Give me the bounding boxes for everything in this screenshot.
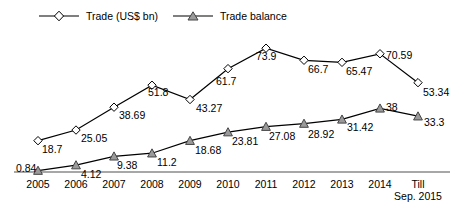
data-point-marker: [110, 103, 118, 111]
data-point-label: 61.7: [216, 76, 236, 87]
data-point-label: 51.8: [148, 87, 168, 98]
data-point-label: 18.68: [195, 145, 221, 156]
data-point-marker: [34, 136, 42, 144]
data-point-label: 38: [386, 102, 398, 113]
data-point-marker: [376, 104, 385, 112]
data-point-label: 33.3: [424, 117, 444, 128]
x-axis-tick-10: TillSep. 2015: [388, 178, 448, 202]
data-point-label: 73.9: [256, 51, 276, 62]
data-point-label: 11.2: [157, 157, 177, 168]
data-point-label: 25.05: [81, 133, 107, 144]
x-axis-tick-line1: Till: [411, 178, 424, 190]
data-point-marker: [72, 126, 80, 134]
data-point-marker: [338, 58, 346, 66]
data-point-label: 23.81: [232, 136, 258, 147]
data-point-label: 28.92: [308, 129, 334, 140]
data-point-label: 0.84: [16, 163, 36, 174]
data-point-label: 66.7: [308, 64, 328, 75]
data-point-label: 27.08: [269, 131, 295, 142]
data-point-label: 53.34: [423, 87, 449, 98]
data-point-label: 18.7: [42, 144, 62, 155]
trade-line-chart: Trade (US$ bn) Trade balance 18.725.0538…: [0, 0, 462, 216]
x-axis-tick-line2: Sep. 2015: [388, 190, 448, 202]
data-point-label: 38.69: [119, 110, 145, 121]
data-point-label: 43.27: [196, 103, 222, 114]
data-point-label: 31.42: [347, 122, 373, 133]
data-point-marker: [300, 56, 308, 64]
data-point-label: 9.38: [117, 160, 137, 171]
data-point-label: 70.59: [386, 50, 412, 61]
data-point-label: 65.47: [346, 66, 372, 77]
